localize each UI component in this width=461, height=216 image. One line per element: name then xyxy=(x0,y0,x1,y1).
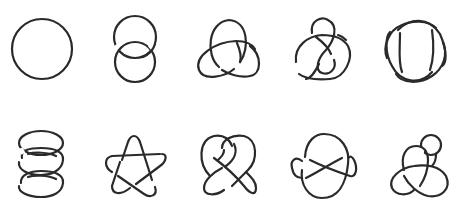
knot-four-crossing-link: Four-crossing link xyxy=(385,21,445,82)
knot-three-chain-link: Chain of three rings xyxy=(19,131,63,197)
knot-trefoil: Trefoil knot xyxy=(198,20,259,77)
knot-cinquefoil: Cinquefoil (star) knot xyxy=(106,136,166,196)
knot-heart-knot: Heart knot xyxy=(201,136,256,195)
knot-unknot: Unknot xyxy=(12,19,72,79)
knot-hopf-link: Hopf link xyxy=(114,16,156,82)
knot-oval-knot: Oval twisted knot xyxy=(292,134,356,198)
knot-figure-eight: Figure-eight knot xyxy=(296,19,350,80)
knot-looped-trefoil: Trefoil with loop xyxy=(391,135,447,196)
knot-diagram: Knot and link table Unknot Hopf link Tre… xyxy=(0,0,461,216)
